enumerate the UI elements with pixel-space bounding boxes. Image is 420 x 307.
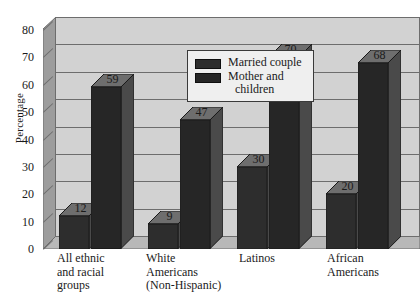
- bar: [180, 120, 210, 249]
- y-tick-label: 40: [8, 135, 34, 145]
- legend-swatch-mother-and-children: [195, 73, 221, 83]
- x-category-label-line: Americans: [327, 266, 379, 280]
- x-category-label-line: groups: [57, 279, 105, 293]
- bar-3d: [91, 74, 134, 249]
- legend-label-married-couple: Married couple: [228, 56, 302, 69]
- y-tick-label: 20: [8, 189, 34, 199]
- plot-area: 129302059477068 Married couple Mother an…: [43, 17, 420, 249]
- y-tick-label: 50: [8, 107, 34, 117]
- x-axis-category-labels: All ethnicand racialgroupsWhiteAmericans…: [43, 252, 420, 307]
- bar-3d: [358, 50, 401, 249]
- x-category-label-line: and racial: [57, 266, 105, 280]
- x-category-label-line: African: [327, 252, 379, 266]
- gridline: [56, 44, 420, 45]
- legend-swatch-married-couple: [195, 59, 221, 69]
- x-category-label-line: White: [146, 252, 221, 266]
- bar-value-label: 68: [350, 48, 410, 63]
- bar: [326, 194, 356, 249]
- bar: [148, 224, 178, 249]
- bar-value-label: 12: [51, 201, 111, 216]
- x-category-label-line: Americans: [146, 266, 221, 280]
- bar-value-label: 20: [318, 179, 378, 194]
- y-tick-label: 80: [8, 25, 34, 35]
- x-category-label-line: (Non-Hispanic): [146, 279, 221, 293]
- y-tick-label: 60: [8, 80, 34, 90]
- bar-value-label: 59: [83, 72, 143, 87]
- x-category-label-line: All ethnic: [57, 252, 105, 266]
- x-category-label-line: Latinos: [239, 252, 275, 266]
- x-category-label: AfricanAmericans: [327, 252, 379, 279]
- legend: Married couple Mother and children: [187, 50, 314, 102]
- bar-chart: Percentage 80706050403020100 12930205947…: [0, 0, 420, 307]
- bar-value-label: 30: [229, 152, 289, 167]
- y-axis-tick-labels: 80706050403020100: [4, 0, 34, 307]
- bar: [91, 87, 121, 249]
- x-category-label: Latinos: [239, 252, 275, 266]
- y-tick-label: 10: [8, 217, 34, 227]
- bar-value-label: 47: [172, 105, 232, 120]
- y-tick-label: 70: [8, 52, 34, 62]
- x-category-label: WhiteAmericans(Non-Hispanic): [146, 252, 221, 293]
- bar: [59, 216, 89, 249]
- legend-item-married-couple: Married couple: [195, 56, 307, 69]
- bar: [358, 63, 388, 249]
- x-category-label: All ethnicand racialgroups: [57, 252, 105, 293]
- bar: [237, 167, 267, 249]
- y-tick-label: 0: [8, 244, 34, 254]
- y-tick-label: 30: [8, 162, 34, 172]
- legend-label-mother-and-children-line2: children: [235, 83, 307, 96]
- bar-3d: [180, 107, 223, 249]
- gridline: [56, 17, 420, 18]
- bar-value-label: 9: [140, 209, 200, 224]
